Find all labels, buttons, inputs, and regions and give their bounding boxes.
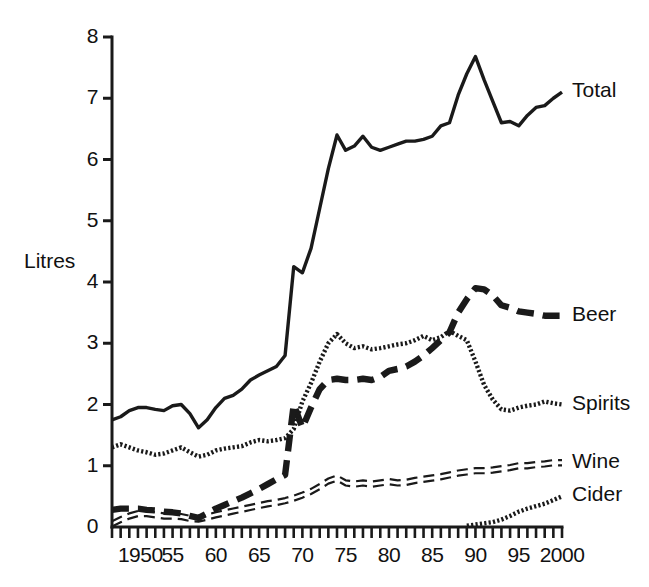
series-line-spirits [112, 331, 562, 457]
y-tick-label-2: 2 [58, 392, 98, 416]
y-tick-label-5: 5 [58, 208, 98, 232]
series-line-total [112, 57, 562, 428]
y-tick-label-6: 6 [58, 147, 98, 171]
y-tick-label-1: 1 [58, 453, 98, 477]
series-label-spirits: Spirits [572, 391, 630, 415]
y-tick-label-7: 7 [58, 85, 98, 109]
series-line-cider [467, 496, 562, 525]
series-label-cider: Cider [572, 482, 622, 506]
axis-lines [112, 37, 562, 527]
x-tick-label-2000: 2000 [527, 543, 597, 567]
y-tick-label-0: 0 [58, 514, 98, 538]
y-tick-label-8: 8 [58, 24, 98, 48]
y-tick-label-4: 4 [58, 269, 98, 293]
series-label-wine: Wine [572, 449, 620, 473]
x-axis-ticks [112, 527, 562, 538]
series-line-wine [112, 460, 562, 526]
series-lines [112, 57, 562, 527]
series-label-beer: Beer [572, 302, 616, 326]
alcohol-consumption-chart: Litres 012345678 19505560657075808590952… [0, 0, 649, 587]
y-tick-label-3: 3 [58, 330, 98, 354]
series-label-total: Total [572, 78, 616, 102]
